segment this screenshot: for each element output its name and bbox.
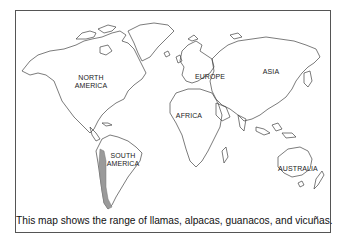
label-australia: AUSTRALIA xyxy=(276,165,320,173)
label-north-america: NORTH AMERICA xyxy=(71,74,111,90)
africa-shape xyxy=(170,89,222,167)
world-map-outline xyxy=(16,11,332,211)
label-asia: ASIA xyxy=(256,68,286,76)
label-south-america: SOUTH AMERICA xyxy=(103,152,143,168)
label-europe: EUROPE xyxy=(190,73,230,81)
greenland-shape xyxy=(128,23,174,61)
map-frame: NORTH AMERICA SOUTH AMERICA EUROPE ASIA … xyxy=(15,10,331,233)
label-africa: AFRICA xyxy=(169,112,209,120)
map-caption: This map shows the range of llamas, alpa… xyxy=(16,215,330,226)
